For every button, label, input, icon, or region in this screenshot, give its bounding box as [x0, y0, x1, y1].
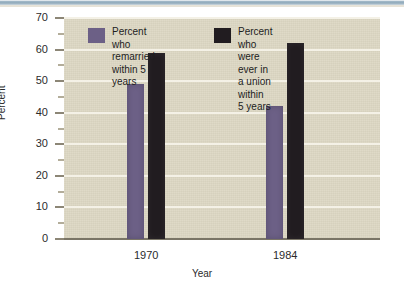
y-axis-tick [55, 49, 64, 51]
y-axis-minor-tick [58, 191, 64, 193]
bar-1970-series1 [127, 84, 144, 239]
y-axis-tick-label: 60 [18, 44, 48, 55]
y-axis-tick-label: 30 [18, 138, 48, 149]
y-axis-tick [55, 112, 64, 114]
legend-swatch-2 [214, 28, 231, 43]
y-axis-tick [55, 17, 64, 19]
y-axis-minor-tick [58, 128, 64, 130]
gridline [64, 17, 380, 19]
y-axis-tick [55, 238, 64, 240]
y-axis-tick [55, 206, 64, 208]
gridline [64, 206, 380, 208]
x-axis-title: Year [0, 268, 404, 279]
y-axis-tick [55, 80, 64, 82]
x-axis-category-label: 1970 [111, 249, 181, 261]
y-axis-tick [55, 143, 64, 145]
y-axis-tick-label: 10 [18, 201, 48, 212]
gridline [64, 175, 380, 177]
y-axis-tick-label: 50 [18, 75, 48, 86]
y-axis-minor-tick [58, 159, 64, 161]
legend-label-2: Percent who were ever in a union within … [238, 26, 272, 114]
plot-area: Percent who remarried within 5 yearsPerc… [64, 18, 380, 239]
y-axis-minor-tick [58, 33, 64, 35]
legend-label-1: Percent who remarried within 5 years [112, 26, 155, 89]
x-axis-baseline [64, 238, 380, 240]
y-axis-tick-label: 40 [18, 107, 48, 118]
y-axis-tick-label: 70 [18, 12, 48, 23]
y-axis-tick-label: 20 [18, 170, 48, 181]
legend-swatch-1 [88, 28, 105, 43]
x-axis-category-label: 1984 [250, 249, 320, 261]
gridline [64, 112, 380, 114]
bar-1984-series2 [287, 43, 304, 239]
bar-1984-series1 [266, 106, 283, 239]
gridline [64, 143, 380, 145]
scan-edge-shadow [0, 5, 404, 7]
y-axis-tick [55, 175, 64, 177]
y-axis-minor-tick [58, 222, 64, 224]
y-axis-minor-tick [58, 96, 64, 98]
y-axis-title: Percent [0, 86, 7, 120]
y-axis-tick-label: 0 [18, 233, 48, 244]
chart-figure: Percent who remarried within 5 yearsPerc… [0, 0, 404, 288]
y-axis-minor-tick [58, 64, 64, 66]
